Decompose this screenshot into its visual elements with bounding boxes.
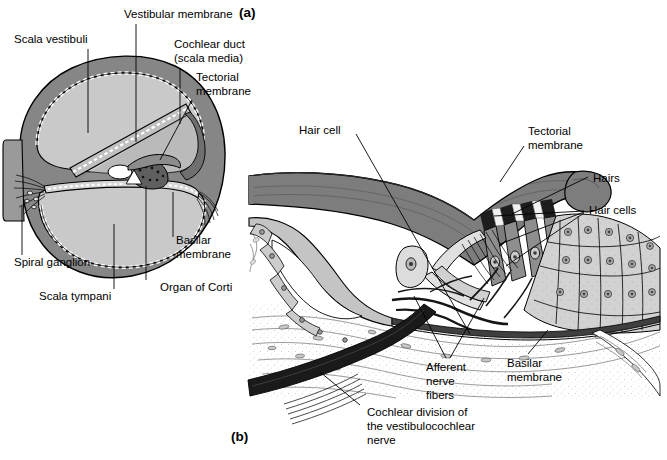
panel-a-group: Scala vestibuli Vestibular membrane Coch… <box>3 8 251 302</box>
label-afferent-nerve-fibers-line1: Afferent <box>426 361 467 373</box>
label-organ-of-corti: Organ of Corti <box>160 281 232 293</box>
label-basilar-membrane-a-line2: membrane <box>176 248 231 260</box>
cochlea-figure: Scala vestibuli Vestibular membrane Coch… <box>0 0 667 460</box>
label-cochlear-division-line2: the vestibulocochlear <box>367 420 475 432</box>
left-vascular-detail <box>249 232 259 272</box>
label-scala-vestibuli: Scala vestibuli <box>14 33 88 45</box>
modiolus-extension <box>3 140 24 221</box>
figure-page: Scala vestibuli Vestibular membrane Coch… <box>0 0 667 460</box>
label-vestibular-membrane: Vestibular membrane <box>124 8 233 20</box>
label-afferent-nerve-fibers-line2: nerve <box>426 375 455 387</box>
label-tectorial-membrane-a-line1: Tectorial <box>196 71 239 83</box>
panel-tag-a: (a) <box>239 5 256 20</box>
label-tectorial-membrane-b-line1: Tectorial <box>528 125 571 137</box>
tectorial-left-band <box>249 176 254 204</box>
label-tectorial-membrane-b-line2: membrane <box>528 139 583 151</box>
label-basilar-membrane-b-line1: Basilar <box>507 357 542 369</box>
label-hair-cells: Hair cells <box>589 204 637 216</box>
leader-tectorial-membrane-b <box>500 146 524 182</box>
label-cochlear-duct-line2: (scala media) <box>174 52 243 64</box>
label-hair-cell-b: Hair cell <box>299 124 341 136</box>
panel-b-group: Hair cell Tectorial membrane Hairs Hair … <box>248 124 662 446</box>
label-basilar-membrane-a-line1: Basilar <box>176 234 211 246</box>
label-cochlear-division-line1: Cochlear division of <box>367 406 468 418</box>
label-cochlear-duct-line1: Cochlear duct <box>174 38 246 50</box>
label-scala-tympani: Scala tympani <box>39 290 111 302</box>
label-basilar-membrane-b-line2: membrane <box>507 371 562 383</box>
label-hairs: Hairs <box>593 172 620 184</box>
panel-tag-b: (b) <box>231 429 248 444</box>
label-afferent-nerve-fibers-line3: fibers <box>426 389 454 401</box>
label-spiral-ganglion: Spiral ganglion <box>14 256 90 268</box>
label-tectorial-membrane-a-line2: membrane <box>196 85 251 97</box>
label-cochlear-division-line3: nerve <box>367 434 396 446</box>
